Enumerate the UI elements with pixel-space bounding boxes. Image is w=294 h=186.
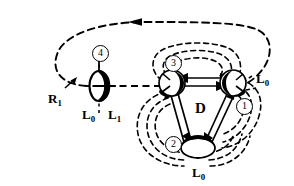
topology-diagram: R1 L0 L1 D L0 L0 4 3 1 2 [0,0,294,186]
label-l0-lens-left: L0 [82,108,95,121]
label-r1: R1 [48,92,62,105]
marker-four: 4 [92,45,109,62]
edge-right-double-rail [206,92,234,142]
r1-pointer-arrow [65,77,77,88]
node-three-circle [159,70,185,97]
node-one-circle [220,70,246,97]
dashed-loops-bottom-left [137,92,185,166]
label-l1-lens-right: L1 [108,108,121,121]
marker-one: 1 [236,98,253,115]
marker-two: 2 [165,136,182,153]
outer-loop-arrowhead [128,18,142,26]
label-l0-bottom: L0 [192,166,205,179]
marker-three: 3 [165,55,182,72]
label-disc-d: D [195,101,206,116]
diagram-canvas [0,0,294,186]
label-l0-right: L0 [256,72,269,85]
